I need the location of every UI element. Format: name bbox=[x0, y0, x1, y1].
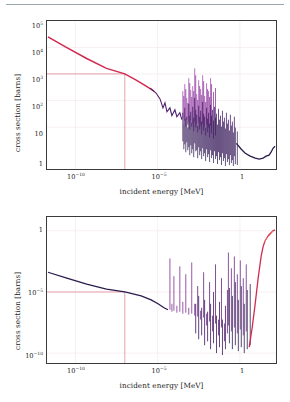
panel-b-plot-svg bbox=[47, 217, 276, 363]
panel-a-ytick-1e4: 104 bbox=[17, 49, 43, 57]
panel-a: cross section [barns] incident energy [M… bbox=[0, 10, 290, 200]
panel-a-ytick-1: 1 bbox=[17, 160, 43, 168]
panel-a-xtick-1e-10: 10−10 bbox=[56, 173, 96, 181]
panel-b-resonance-region bbox=[170, 253, 250, 356]
panel-b-fast-curve bbox=[249, 230, 275, 347]
panel-a-xlabel: incident energy [MeV] bbox=[46, 187, 277, 196]
panel-b-xtick-1e-10: 10−10 bbox=[56, 367, 96, 375]
panel-b-thermal-guides bbox=[47, 292, 125, 363]
panel-b-ytick-1e-5: 10−5 bbox=[17, 289, 43, 297]
panel-a-ylabel: cross section [barns] bbox=[13, 74, 22, 152]
panel-a-slow-curve bbox=[48, 37, 154, 91]
panel-b-ylabel: cross section [barns] bbox=[13, 272, 22, 350]
panel-a-ytick-1e2: 102 bbox=[17, 103, 43, 111]
panel-a-ytick-10: 10 bbox=[17, 130, 43, 138]
panel-a-transition-curve bbox=[150, 88, 182, 120]
panel-a-plot-svg bbox=[47, 21, 276, 169]
panel-a-thermal-guides bbox=[47, 74, 125, 169]
panel-a-resonance-region bbox=[183, 68, 238, 166]
panel-a-fast-curve bbox=[236, 143, 275, 159]
panel-a-plot-area bbox=[46, 20, 277, 170]
panel-a-xtick-1: 1 bbox=[222, 173, 262, 181]
panel-b-plot-area bbox=[46, 216, 277, 364]
panel-b-slow-curve bbox=[48, 272, 168, 309]
panel-b: cross section [barns] incident energy [M… bbox=[0, 200, 290, 400]
panel-b-ytick-1e-10: 10−10 bbox=[17, 352, 43, 360]
panel-a-ytick-1e5: 105 bbox=[17, 22, 43, 30]
panel-a-ytick-1e3: 103 bbox=[17, 76, 43, 84]
panel-b-xtick-1e-5: 10−5 bbox=[139, 367, 179, 375]
panel-b-fast-curve-highlight bbox=[264, 231, 273, 243]
figure-root: cross section [barns] incident energy [M… bbox=[0, 0, 290, 402]
panel-b-xtick-1: 1 bbox=[222, 367, 262, 375]
panel-b-ytick-1: 1 bbox=[17, 226, 43, 234]
panel-b-xlabel: incident energy [MeV] bbox=[46, 381, 277, 390]
panel-a-gridlines bbox=[47, 21, 276, 169]
panel-a-xtick-1e-5: 10−5 bbox=[139, 173, 179, 181]
page-top-rule bbox=[6, 4, 284, 5]
